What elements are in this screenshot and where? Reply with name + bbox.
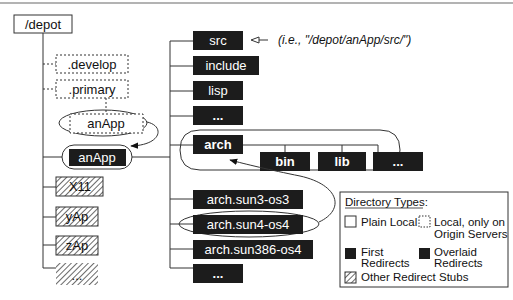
dir-include: include xyxy=(193,56,259,75)
svg-text:...: ... xyxy=(393,154,404,169)
svg-text:bin: bin xyxy=(275,154,295,169)
svg-text:Local, only on: Local, only on xyxy=(434,216,505,228)
svg-text:Redirects: Redirects xyxy=(434,257,483,269)
svg-text:...: ... xyxy=(213,266,224,281)
stub-zap: zAp xyxy=(56,236,98,255)
legend-first-redirects-swatch xyxy=(345,248,356,259)
svg-text:Origin Servers: Origin Servers xyxy=(434,228,508,240)
dir-arch-sun3-os3: arch.sun3-os3 xyxy=(193,190,303,209)
svg-text:.develop: .develop xyxy=(67,57,116,72)
svg-text:include: include xyxy=(205,58,246,73)
legend-overlaid-redirects-swatch xyxy=(419,248,430,259)
svg-text:(i.e., "/depot/anApp/src/"): (i.e., "/depot/anApp/src/") xyxy=(278,33,411,47)
svg-text:Redirects: Redirects xyxy=(361,257,410,269)
svg-text:...: ... xyxy=(72,268,83,283)
svg-text:zAp: zAp xyxy=(66,238,88,253)
stub-yap: yAp xyxy=(56,207,98,226)
dir-src: src xyxy=(193,31,243,50)
svg-text:arch.sun3-os3: arch.sun3-os3 xyxy=(207,192,289,207)
depot-diagram: /depot .develop .primary anApp anApp X11… xyxy=(0,0,513,300)
svg-text:/depot: /depot xyxy=(25,17,62,32)
dir-arch-sun4-os4: arch.sun4-os4 xyxy=(193,215,303,234)
src-annotation: (i.e., "/depot/anApp/src/") xyxy=(251,33,411,47)
svg-text:arch.sun386-os4: arch.sun386-os4 xyxy=(205,242,302,257)
svg-text:arch: arch xyxy=(204,137,232,152)
root-directory: /depot xyxy=(14,15,72,33)
legend-plain-local-swatch xyxy=(345,216,356,227)
svg-text:arch.sun4-os4: arch.sun4-os4 xyxy=(207,217,289,232)
svg-text:anApp: anApp xyxy=(78,150,116,165)
legend: Directory Types: Plain Local Local, only… xyxy=(340,192,508,287)
svg-text:...: ... xyxy=(213,108,224,123)
origin-dir-develop: .develop xyxy=(56,55,128,73)
dir-arch-bin: bin xyxy=(260,152,310,171)
first-redirect-anapp: anApp xyxy=(62,145,132,169)
dir-more-1: ... xyxy=(193,106,243,125)
stub-x11: X11 xyxy=(56,177,103,196)
svg-text:X11: X11 xyxy=(69,179,91,194)
dir-arch-sun386-os4: arch.sun386-os4 xyxy=(193,240,313,259)
dir-arch-more: ... xyxy=(373,152,423,171)
svg-text:yAp: yAp xyxy=(66,209,88,224)
stub-more: ... xyxy=(56,263,98,285)
svg-text:anApp: anApp xyxy=(87,116,125,131)
origin-dir-primary: .primary xyxy=(56,80,128,98)
legend-local-origin-swatch xyxy=(419,216,430,227)
origin-anapp: anApp xyxy=(59,110,147,136)
svg-text:lib: lib xyxy=(334,154,349,169)
hollow-arrow-icon xyxy=(251,37,259,43)
dir-lisp: lisp xyxy=(193,81,243,100)
dir-arch: arch xyxy=(193,135,243,154)
legend-title: Directory Types: xyxy=(345,196,428,208)
svg-text:.primary: .primary xyxy=(69,82,116,97)
legend-other-stubs-swatch xyxy=(345,272,356,283)
dir-arch-lib: lib xyxy=(318,152,366,171)
svg-text:lisp: lisp xyxy=(208,83,228,98)
svg-text:Plain Local: Plain Local xyxy=(361,216,417,228)
dir-more-2: ... xyxy=(193,264,243,283)
svg-text:src: src xyxy=(209,33,227,48)
svg-text:Other Redirect Stubs: Other Redirect Stubs xyxy=(361,271,469,283)
